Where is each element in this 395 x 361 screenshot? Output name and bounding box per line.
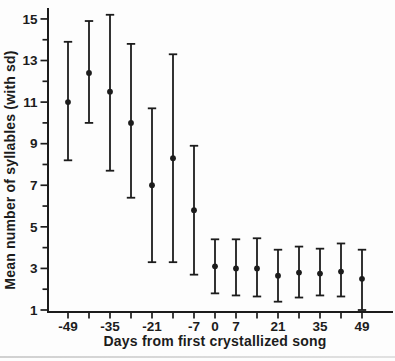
- bottom-rule: [0, 356, 395, 358]
- data-point: [170, 155, 176, 161]
- y-tick-label: 11: [23, 95, 38, 110]
- y-tick-label: 7: [30, 178, 38, 193]
- data-point: [149, 182, 155, 188]
- y-tick-label: 9: [30, 136, 38, 151]
- x-tick-label: 21: [270, 319, 286, 334]
- x-tick-label: 7: [232, 319, 240, 334]
- data-point: [128, 120, 134, 126]
- x-tick-label: -35: [100, 319, 120, 334]
- figure: 13579111315-49-35-21-707213549 Mean numb…: [0, 0, 395, 361]
- x-tick-label: 0: [211, 319, 219, 334]
- data-point: [65, 99, 71, 105]
- y-tick-label: 1: [30, 303, 38, 318]
- x-tick-label: -7: [188, 319, 200, 334]
- x-tick-label: 49: [354, 319, 369, 334]
- y-tick-label: 5: [30, 220, 38, 235]
- x-tick-label: -21: [142, 319, 162, 334]
- data-point: [338, 269, 344, 275]
- x-axis-title: Days from first crystallized song: [65, 333, 365, 349]
- data-point: [86, 70, 92, 76]
- data-point: [359, 276, 365, 282]
- data-point: [233, 266, 239, 272]
- data-point: [191, 207, 197, 213]
- data-point: [317, 271, 323, 277]
- syllables-errorbar-chart: 13579111315-49-35-21-707213549: [0, 0, 395, 361]
- y-tick-label: 13: [22, 53, 38, 68]
- y-axis-title: Mean number of syllables (with sd): [2, 40, 20, 300]
- x-tick-label: 35: [312, 319, 328, 334]
- x-tick-label: -49: [58, 319, 78, 334]
- data-point: [275, 273, 281, 279]
- data-point: [254, 266, 260, 272]
- y-tick-label: 15: [22, 12, 38, 27]
- data-point: [212, 263, 218, 269]
- y-tick-label: 3: [30, 261, 38, 276]
- data-point: [296, 270, 302, 276]
- data-point: [107, 89, 113, 95]
